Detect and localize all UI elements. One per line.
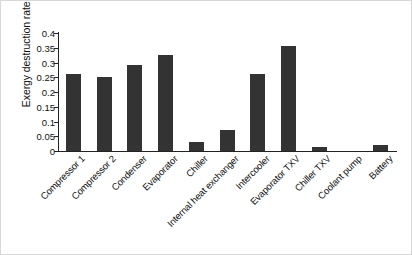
bar [281,46,296,151]
y-tick-mark [54,107,58,108]
y-tick-label: 0.35 [37,42,56,53]
y-axis-tick-labels: 0.40.350.30.250.20.150.10.050 [23,27,55,153]
bar [220,130,235,151]
bar [189,142,204,151]
x-tick-label: Chiller [184,153,210,179]
bar-series [58,33,396,151]
x-axis-line [57,151,397,152]
y-tick-mark [54,136,58,137]
bar [127,65,142,151]
plot-area [58,33,396,151]
bar [373,145,388,151]
bar [312,147,327,151]
y-tick-label: 0.05 [37,131,56,142]
bar [158,55,173,151]
y-tick-mark [54,33,58,34]
y-tick-label: 0.15 [37,101,56,112]
y-tick-mark [54,63,58,64]
bar [250,74,265,151]
y-tick-mark [54,48,58,49]
x-axis-tick-labels: Compressor 1Compressor 2CondenserEvapora… [58,153,410,253]
y-tick-mark [54,122,58,123]
bar [66,74,81,151]
y-tick-label: 0.25 [37,72,56,83]
y-tick-mark [54,92,58,93]
y-tick-mark [54,151,58,152]
y-tick-mark [54,77,58,78]
bar-chart-figure: Exergy destruction rate (kW) 0.40.350.30… [0,0,412,255]
x-tick-label: Battery [366,153,394,181]
bar [97,77,112,151]
